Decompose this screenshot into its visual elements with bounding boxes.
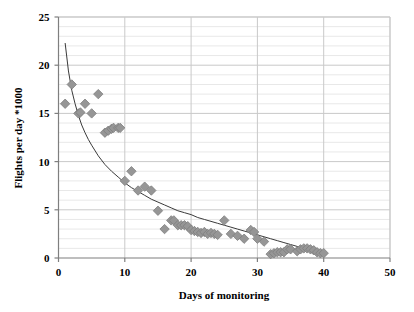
scatter-chart: 01020304050 0510152025 Days of monitorin…: [0, 0, 414, 312]
x-axis-title: Days of monitoring: [179, 289, 270, 301]
y-tick-label: 5: [44, 204, 50, 216]
y-tick-label: 25: [39, 11, 51, 23]
chart-background: [0, 0, 414, 312]
x-tick-label: 30: [252, 266, 264, 278]
x-tick-label: 0: [56, 266, 62, 278]
y-tick-label: 0: [44, 252, 50, 264]
x-tick-label: 10: [119, 266, 131, 278]
y-axis-title: Flights per day *1000: [12, 87, 24, 188]
y-tick-label: 10: [39, 156, 51, 168]
y-tick-label: 20: [39, 59, 51, 71]
x-tick-label: 40: [318, 266, 330, 278]
y-tick-label: 15: [39, 107, 51, 119]
x-tick-label: 50: [385, 266, 397, 278]
chart-container: 01020304050 0510152025 Days of monitorin…: [0, 0, 414, 312]
x-tick-label: 20: [186, 266, 198, 278]
